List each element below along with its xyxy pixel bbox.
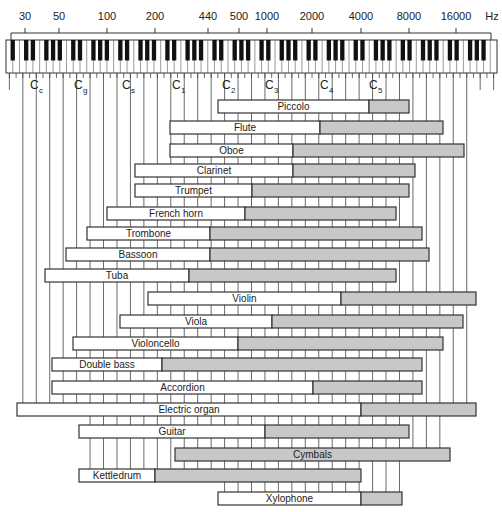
octave-label-subscript: s xyxy=(131,86,135,95)
instrument-bar-tuba: Tuba xyxy=(45,269,396,282)
instrument-bar-electric-organ: Electric organ xyxy=(17,403,476,416)
harmonic-range-segment xyxy=(245,207,396,220)
instrument-label: Accordion xyxy=(160,382,204,393)
frequency-axis: 3050100200440500100020004000800016000Hz xyxy=(11,10,499,40)
instrument-bar-accordion: Accordion xyxy=(52,381,422,394)
instrument-bar-flute: Flute xyxy=(170,121,443,134)
harmonic-range-segment xyxy=(155,469,361,482)
harmonic-range-segment xyxy=(293,144,464,157)
piano-keyboard xyxy=(6,40,497,73)
octave-label-C4: C xyxy=(320,78,329,92)
harmonic-range-segment xyxy=(293,164,415,177)
instrument-bar-piccolo: Piccolo xyxy=(218,100,409,113)
axis-tick-label: 50 xyxy=(53,10,65,22)
instrument-bar-trombone: Trombone xyxy=(87,227,422,240)
harmonic-range-segment xyxy=(341,292,476,305)
harmonic-range-segment xyxy=(162,358,422,371)
instrument-label: Clarinet xyxy=(197,165,232,176)
harmonic-range-segment xyxy=(361,492,402,505)
instrument-bar-oboe: Oboe xyxy=(170,144,464,157)
instrument-bar-cymbals: Cymbals xyxy=(175,448,450,461)
axis-tick-label: 440 xyxy=(199,10,217,22)
instrument-bar-double-bass: Double bass xyxy=(52,358,422,371)
instrument-label: Trumpet xyxy=(175,185,212,196)
octave-label-subscript: c xyxy=(39,86,43,95)
instrument-bar-kettledrum: Kettledrum xyxy=(79,469,361,482)
instrument-label: Piccolo xyxy=(277,101,310,112)
octave-label-C2: C xyxy=(222,78,231,92)
octave-label-Cg: C xyxy=(74,78,83,92)
instrument-label: Trombone xyxy=(126,228,172,239)
instrument-bar-trumpet: Trumpet xyxy=(135,184,409,197)
harmonic-range-segment xyxy=(210,248,429,261)
harmonic-range-segment xyxy=(369,100,409,113)
instrument-label: Cymbals xyxy=(293,449,332,460)
axis-tick-label: 30 xyxy=(19,10,31,22)
octave-label-subscript: 5 xyxy=(378,86,383,95)
axis-tick-label: 100 xyxy=(98,10,116,22)
instrument-label: Kettledrum xyxy=(93,470,141,481)
chart-canvas: 3050100200440500100020004000800016000Hz … xyxy=(0,0,502,512)
axis-tick-label: 16000 xyxy=(441,10,472,22)
instrument-label: Electric organ xyxy=(158,404,219,415)
instrument-bar-violoncello: Violoncello xyxy=(73,337,443,350)
harmonic-range-segment xyxy=(252,184,409,197)
instrument-label: Violin xyxy=(232,293,256,304)
axis-tick-label: 1000 xyxy=(255,10,279,22)
octave-label-subscript: g xyxy=(83,86,87,95)
harmonic-range-segment xyxy=(238,337,443,350)
axis-tick-label: 500 xyxy=(230,10,248,22)
instrument-label: Guitar xyxy=(158,426,186,437)
instrument-label: French horn xyxy=(149,208,203,219)
axis-tick-label: 200 xyxy=(146,10,164,22)
instrument-bar-bassoon: Bassoon xyxy=(66,248,429,261)
axis-tick-label: 2000 xyxy=(300,10,324,22)
octave-label-C5: C xyxy=(369,78,378,92)
instrument-label: Oboe xyxy=(219,145,244,156)
instrument-label: Tuba xyxy=(106,270,129,281)
instrument-label: Bassoon xyxy=(119,249,158,260)
octave-label-subscript: 4 xyxy=(329,86,334,95)
instrument-bar-guitar: Guitar xyxy=(79,425,409,438)
octave-label-C1: C xyxy=(172,78,181,92)
instrument-label: Xylophone xyxy=(266,493,314,504)
octave-note-labels: CcCgCsC1C2C3C4C5 xyxy=(30,78,383,95)
instrument-frequency-range-chart: 3050100200440500100020004000800016000Hz … xyxy=(0,0,502,512)
octave-label-C3: C xyxy=(265,78,274,92)
axis-tick-label: 8000 xyxy=(397,10,421,22)
harmonic-range-segment xyxy=(272,315,463,328)
octave-label-subscript: 1 xyxy=(181,86,186,95)
octave-label-subscript: 2 xyxy=(231,86,236,95)
instrument-label: Flute xyxy=(234,122,257,133)
instrument-bar-clarinet: Clarinet xyxy=(135,164,415,177)
harmonic-range-segment xyxy=(189,269,396,282)
octave-label-subscript: 3 xyxy=(274,86,279,95)
harmonic-range-segment xyxy=(361,403,476,416)
instrument-bars: PiccoloFluteOboeClarinetTrumpetFrench ho… xyxy=(17,100,476,505)
harmonic-range-segment xyxy=(320,121,443,134)
instrument-label: Violoncello xyxy=(131,338,180,349)
axis-unit-label: Hz xyxy=(485,10,498,22)
instrument-label: Viola xyxy=(185,316,207,327)
harmonic-range-segment xyxy=(265,425,409,438)
axis-tick-label: 4000 xyxy=(349,10,373,22)
instrument-label: Double bass xyxy=(79,359,135,370)
octave-label-Cc: C xyxy=(30,78,39,92)
instrument-bar-french-horn: French horn xyxy=(107,207,396,220)
octave-label-Cs: C xyxy=(122,78,131,92)
instrument-bar-violin: Violin xyxy=(148,292,476,305)
harmonic-range-segment xyxy=(210,227,422,240)
harmonic-range-segment xyxy=(313,381,422,394)
instrument-bar-viola: Viola xyxy=(120,315,463,328)
instrument-bar-xylophone: Xylophone xyxy=(218,492,402,505)
